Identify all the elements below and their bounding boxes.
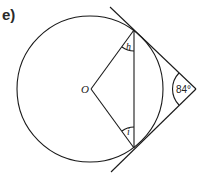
circle-tangent-diagram: O h i 84°: [0, 0, 197, 175]
angle-label-84: 84°: [176, 84, 191, 95]
tangent-line-bottom: [111, 89, 196, 172]
angle-label-i: i: [127, 126, 130, 137]
angle-label-h: h: [126, 41, 131, 52]
radius-bottom: [91, 89, 134, 148]
radius-top: [91, 30, 134, 89]
center-label: O: [81, 83, 89, 95]
circle: [17, 16, 163, 162]
